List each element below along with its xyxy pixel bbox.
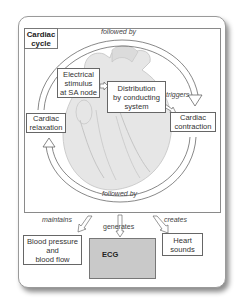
triggers-label: triggers [166,91,189,98]
node-text: by conducting [113,93,160,102]
node-text: at SA node [60,88,97,97]
node-text: blood flow [35,255,69,264]
generates-label: generates [103,223,134,230]
node-distribution: Distribution by conducting system [107,81,166,113]
node-text: Heart [173,236,192,245]
node-text: Cardiac [180,113,206,122]
node-text: and [46,246,59,255]
top-followed-by-label: followed by [101,28,136,35]
node-text: sounds [170,245,195,254]
node-text: contraction [174,122,211,131]
node-text: Blood pressure [27,237,78,246]
node-text: system [124,102,148,111]
node-cardiac-relaxation: Cardiac relaxation [26,113,66,133]
node-text: stimulus [65,79,93,88]
node-blood-pressure: Blood pressure and blood flow [23,235,82,265]
creates-label: creates [164,216,187,223]
node-heart-sounds: Heart sounds [162,233,203,256]
node-text: Cardiac [33,114,59,123]
bottom-followed-by-label: followed by [102,190,137,197]
node-ecg: ECG [89,238,156,279]
node-text: Distribution [118,84,156,93]
node-text: relaxation [30,123,63,132]
maintains-arrow [78,216,92,232]
maintains-label: maintains [42,216,72,223]
ecg-label: ECG [102,250,118,259]
title-line-1: Cardiac [27,30,56,39]
title-line-2: cycle [31,39,51,48]
node-cardiac-contraction: Cardiac contraction [170,112,216,132]
cardiac-cycle-title: Cardiac cycle [24,28,58,49]
node-text: Electrical [63,70,94,79]
node-electrical-stimulus: Electrical stimulus at SA node [57,68,100,98]
